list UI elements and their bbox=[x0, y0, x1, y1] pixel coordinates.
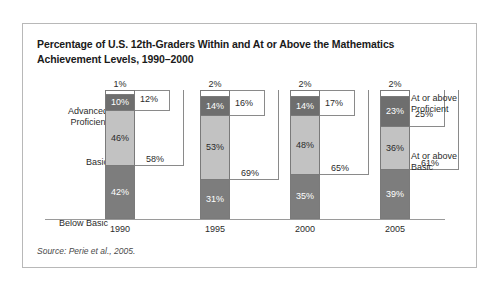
bar-1990-proficient-leader-v bbox=[169, 90, 170, 111]
bar-1995-below-basic-label: 31% bbox=[206, 195, 224, 204]
source-note: Source: Perie et al., 2005. bbox=[37, 246, 135, 256]
bar-2005-advanced-value: 2% bbox=[380, 79, 410, 89]
bar-2005-segment-proficient: 23% bbox=[380, 96, 410, 126]
bar-1990-basic-leader-v bbox=[183, 90, 184, 166]
bar-1990-basic-leader-h bbox=[135, 165, 183, 166]
x-tick-1990: 1990 bbox=[100, 224, 140, 234]
bar-1995-segment-proficient: 14% bbox=[200, 96, 230, 115]
bar-1995-segment-below-basic: 31% bbox=[200, 179, 230, 219]
category-label-proficient: Proficient bbox=[33, 117, 108, 128]
bar-1990[interactable]: 10% 46% 42% bbox=[105, 90, 135, 219]
bar-1995-at-or-above-proficient-value: 16% bbox=[234, 98, 254, 108]
bar-1995-basic-label: 53% bbox=[206, 143, 224, 152]
bar-2005-below-basic-label: 39% bbox=[386, 190, 404, 199]
bar-2000[interactable]: 14% 48% 35% bbox=[290, 90, 320, 219]
bar-2005-proficient-leader-h bbox=[410, 126, 444, 127]
bar-1990-advanced-value: 1% bbox=[105, 79, 135, 89]
x-tick-1995: 1995 bbox=[195, 224, 235, 234]
bar-1990-segment-below-basic: 42% bbox=[105, 165, 135, 219]
bar-1995[interactable]: 14% 53% 31% bbox=[200, 90, 230, 219]
bar-2000-at-or-above-basic-value: 65% bbox=[330, 163, 350, 173]
bar-1995-segment-basic: 53% bbox=[200, 115, 230, 179]
x-tick-2000: 2000 bbox=[285, 224, 325, 234]
legend-at-or-above-basic-line2: Basic bbox=[411, 162, 433, 174]
bar-2000-below-basic-label: 35% bbox=[296, 192, 314, 201]
bar-2005-basic-leader-v bbox=[458, 90, 459, 170]
bar-2000-proficient-leader-v bbox=[354, 90, 355, 116]
bar-1995-proficient-label: 14% bbox=[206, 102, 224, 111]
bar-2005-basic-label: 36% bbox=[386, 144, 404, 153]
bar-1990-at-or-above-proficient-value: 12% bbox=[139, 94, 159, 104]
bar-2000-basic-leader-v bbox=[368, 90, 369, 175]
legend-at-or-above-proficient-line2: Proficient bbox=[411, 104, 449, 116]
category-label-basic: Basic bbox=[33, 157, 108, 168]
bar-1990-basic-label: 46% bbox=[111, 134, 129, 143]
bar-1990-segment-basic: 46% bbox=[105, 110, 135, 165]
chart-plot-area: Advanced Proficient Basic Below Basic 1%… bbox=[23, 24, 478, 269]
bar-2000-basic-leader-h bbox=[320, 174, 368, 175]
bar-1995-basic-leader-v bbox=[278, 90, 279, 180]
bar-1995-proficient-leader-h bbox=[230, 115, 264, 116]
bar-2000-basic-label: 48% bbox=[296, 141, 314, 150]
bar-1990-below-basic-label: 42% bbox=[111, 188, 129, 197]
x-tick-2005: 2005 bbox=[375, 224, 415, 234]
bar-1995-proficient-leader-top bbox=[230, 90, 264, 91]
legend-at-or-above-proficient-line1: At or above bbox=[411, 93, 457, 105]
figure-frame: Percentage of U.S. 12th-Graders Within a… bbox=[22, 23, 477, 268]
bar-2005-segment-below-basic: 39% bbox=[380, 169, 410, 219]
bar-2000-proficient-label: 14% bbox=[296, 102, 314, 111]
bar-2000-segment-below-basic: 35% bbox=[290, 174, 320, 219]
bar-2005-proficient-label: 23% bbox=[386, 107, 404, 116]
category-label-advanced: Advanced bbox=[33, 106, 108, 117]
legend-at-or-above-basic-line1: At or above bbox=[411, 151, 457, 163]
bar-2000-segment-proficient: 14% bbox=[290, 96, 320, 115]
bar-1995-at-or-above-basic-value: 69% bbox=[240, 168, 260, 178]
bar-2000-segment-basic: 48% bbox=[290, 115, 320, 174]
bar-1990-proficient-leader-h bbox=[135, 110, 169, 111]
bar-1990-proficient-label: 10% bbox=[111, 98, 129, 107]
x-axis-line bbox=[45, 219, 445, 220]
bar-2000-proficient-leader-top bbox=[320, 90, 354, 91]
bar-1995-proficient-leader-v bbox=[264, 90, 265, 116]
bar-2000-proficient-leader-h bbox=[320, 115, 354, 116]
bar-2000-advanced-value: 2% bbox=[290, 79, 320, 89]
bar-1995-advanced-value: 2% bbox=[200, 79, 230, 89]
bar-1990-at-or-above-basic-value: 58% bbox=[145, 154, 165, 164]
bar-1990-proficient-leader-top bbox=[135, 90, 169, 91]
bar-2005[interactable]: 23% 36% 39% bbox=[380, 90, 410, 219]
bar-1990-segment-proficient: 10% bbox=[105, 94, 135, 110]
bar-1995-basic-leader-h bbox=[230, 179, 278, 180]
bar-2000-at-or-above-proficient-value: 17% bbox=[324, 98, 344, 108]
bar-2005-segment-basic: 36% bbox=[380, 126, 410, 169]
